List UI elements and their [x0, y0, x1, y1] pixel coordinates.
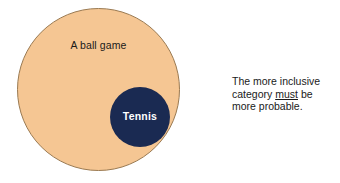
outer-set-label: A ball game — [18, 39, 179, 51]
inner-set-circle: Tennis — [110, 87, 170, 147]
caption-emphasis-must: must — [275, 88, 298, 100]
caption-line-2-before: category — [232, 88, 275, 100]
inner-set-label: Tennis — [110, 110, 170, 122]
caption-line-3: more probable. — [232, 100, 334, 113]
caption-line-2: category must be — [232, 88, 334, 101]
diagram-canvas: A ball game Tennis The more inclusive ca… — [0, 0, 340, 183]
caption-text-block: The more inclusive category must be more… — [232, 75, 334, 113]
outer-set-circle: A ball game Tennis — [17, 8, 180, 171]
caption-line-2-after: be — [298, 88, 313, 100]
caption-line-1: The more inclusive — [232, 75, 334, 88]
